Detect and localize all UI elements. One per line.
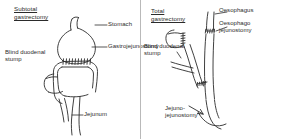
label-jejunum: Jejunum [84, 111, 107, 118]
panel-subtotal-gastrectomy: Subtotal gastrectomy Stomach Gastrojejun… [0, 0, 140, 139]
label-stomach: Stomach [108, 21, 132, 28]
label-oesophagus: Oesophagus [219, 7, 254, 14]
panel-total-gastrectomy: Total gastrectomy Oesophagus Oesophago j… [141, 0, 281, 139]
label-blind-duodenal-stump-total: Blind duodenal stump [144, 43, 184, 57]
label-jejuno-jejunostomy: Jejuno- jejunostomy [165, 105, 198, 119]
gastrectomy-figure: Subtotal gastrectomy Stomach Gastrojejun… [0, 0, 281, 139]
label-oesophago-jejunostomy: Oesophago jejunostomy [219, 20, 252, 34]
label-blind-duodenal-stump: Blind duodenal stump [5, 49, 45, 63]
panel-title-subtotal: Subtotal gastrectomy [14, 5, 48, 21]
panel-title-total: Total gastrectomy [151, 7, 185, 23]
